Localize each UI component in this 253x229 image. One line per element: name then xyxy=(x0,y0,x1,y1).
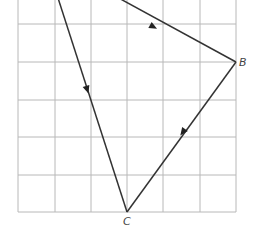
arrow-head-icon xyxy=(83,85,92,95)
vertex-label-b: B xyxy=(239,56,247,69)
vector-triangle-diagram: B C xyxy=(0,0,253,229)
arrow-head-icon xyxy=(148,22,158,32)
vertex-label-c: C xyxy=(123,215,131,228)
edge-a-to-b xyxy=(71,0,236,62)
edge-a-to-c xyxy=(58,0,127,212)
